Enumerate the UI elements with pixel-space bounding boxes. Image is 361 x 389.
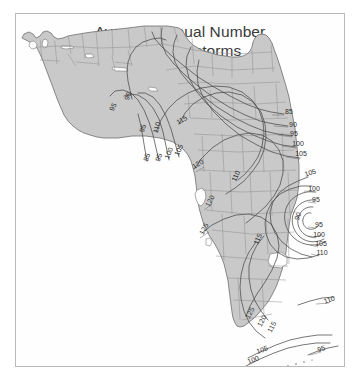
contour-value-label: 100 — [308, 185, 320, 192]
contour-map: 9095951101158595100105120110120125115859… — [16, 14, 344, 366]
florida-land-polygon — [22, 26, 299, 327]
contour-value-label: 95 — [316, 344, 326, 353]
figure-canvas: Average Annual Number of Thunderstorms — [0, 0, 361, 389]
key-dot — [303, 361, 305, 362]
contour-value-label: 95 — [315, 221, 323, 228]
contour-value-label: 90 — [289, 121, 297, 128]
contour-value-label: 95 — [312, 196, 320, 203]
key-dot — [311, 359, 313, 360]
contour-value-label: 105 — [255, 344, 268, 355]
contour-value-label: 100 — [246, 354, 259, 365]
contour-value-label: 100 — [292, 140, 304, 147]
contour-value-label: 120 — [256, 314, 268, 328]
map-svg: 9095951101158595100105120110120125115859… — [16, 14, 344, 366]
contour-value-label: 105 — [304, 167, 317, 177]
contour-value-label: 105 — [315, 240, 327, 247]
key-dot — [287, 365, 289, 366]
contour-value-label: 110 — [316, 249, 327, 256]
contour-value-label: 95 — [290, 130, 298, 137]
charlotte-harbor — [206, 238, 212, 246]
contour-value-label: 85 — [142, 152, 151, 162]
land-mass-group — [22, 26, 299, 327]
contour-value-label: 105 — [295, 150, 307, 157]
contour-value-label: 85 — [285, 108, 293, 115]
contour-value-label: 115 — [266, 320, 277, 333]
contour-value-label: 110 — [323, 295, 336, 305]
key-dot — [295, 363, 297, 364]
contour-value-label: 100 — [313, 231, 325, 238]
contour-value-label: 95 — [154, 152, 163, 162]
